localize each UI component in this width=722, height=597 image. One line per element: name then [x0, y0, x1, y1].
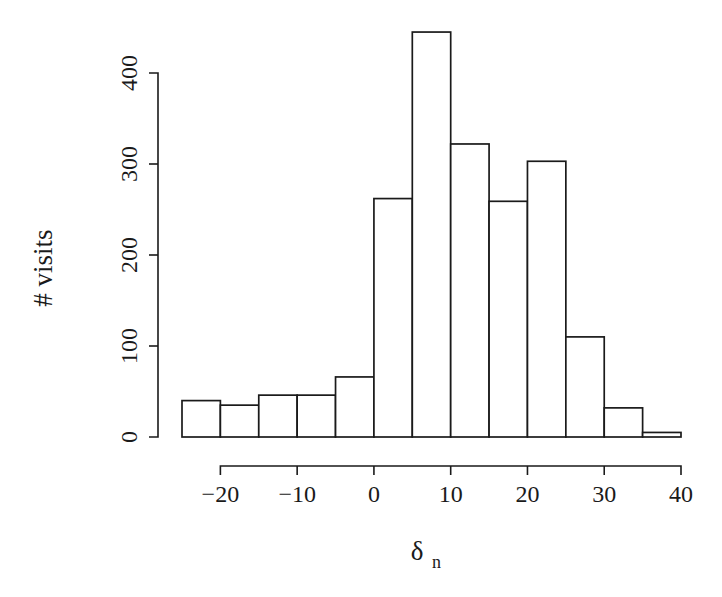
x-axis-title-text: δ [411, 536, 424, 566]
y-axis-tick-label: 200 [116, 237, 142, 273]
histogram-bar [527, 161, 565, 437]
x-axis-tick-label: 10 [439, 481, 463, 507]
histogram-bar [259, 395, 297, 437]
x-axis-tick-label: 30 [592, 481, 616, 507]
histogram-bar [220, 405, 258, 437]
plot-background [0, 0, 722, 597]
x-axis-title-subscript: n [432, 552, 441, 572]
y-axis-title: # visits [28, 229, 58, 306]
x-axis-tick-label: 0 [368, 481, 380, 507]
histogram-figure: 0100200300400 −20−10010203040 # visits δ… [0, 0, 722, 597]
y-axis-tick-label: 100 [116, 328, 142, 364]
histogram-bar [336, 377, 374, 437]
histogram-bar [451, 144, 489, 437]
y-axis-tick-label: 300 [116, 146, 142, 182]
histogram-bar [297, 395, 335, 437]
x-axis-tick-label: 40 [669, 481, 693, 507]
histogram-bar [374, 199, 412, 437]
histogram-bar [489, 201, 527, 437]
y-axis-title-text: # visits [28, 229, 58, 306]
y-axis-tick-label: 0 [116, 431, 142, 443]
histogram-bar [566, 337, 604, 437]
x-axis-tick-label: −20 [202, 481, 240, 507]
y-axis-tick-label: 400 [116, 55, 142, 91]
histogram-plot: 0100200300400 −20−10010203040 # visits δ… [0, 0, 722, 597]
histogram-bar [412, 32, 450, 437]
x-axis-tick-label: −10 [278, 481, 316, 507]
histogram-bar [182, 401, 220, 437]
x-axis-tick-label: 20 [515, 481, 539, 507]
histogram-bar [604, 408, 642, 437]
histogram-bar [643, 432, 681, 437]
